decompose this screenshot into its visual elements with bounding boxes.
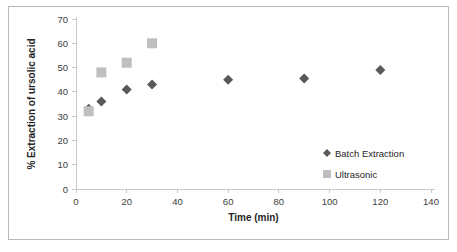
x-tick-label: 20: [121, 196, 132, 207]
chart-screenshot: 010203040506070 020406080100120140 Batch…: [0, 0, 457, 252]
data-point-ultrasonic: [147, 38, 157, 48]
y-tick-label: 50: [57, 62, 68, 73]
data-point-batch-extraction: [96, 97, 106, 107]
x-axis: 020406080100120140: [73, 189, 439, 207]
x-tick-label: 0: [73, 196, 78, 207]
data-point-batch-extraction: [147, 80, 157, 90]
y-tick-label: 30: [57, 111, 68, 122]
legend-marker-square: [323, 170, 331, 178]
y-tick-label: 40: [57, 86, 68, 97]
legend-label: Ultrasonic: [335, 169, 377, 180]
y-tick-label: 60: [57, 38, 68, 49]
x-axis-title: Time (min): [228, 212, 278, 223]
data-point-batch-extraction: [375, 65, 385, 75]
scatter-chart: 010203040506070 020406080100120140 Batch…: [9, 7, 450, 241]
x-tick-label: 80: [274, 196, 285, 207]
x-tick-label: 120: [372, 196, 388, 207]
y-axis-title: % Extraction of ursolic acid: [26, 38, 37, 169]
data-point-batch-extraction: [299, 74, 309, 84]
y-tick-label: 70: [57, 14, 68, 25]
y-tick-label: 20: [57, 135, 68, 146]
figure-frame: 010203040506070 020406080100120140 Batch…: [8, 6, 449, 240]
data-points: [84, 38, 386, 116]
x-tick-label: 40: [172, 196, 183, 207]
x-tick-label: 100: [322, 196, 338, 207]
data-point-ultrasonic: [122, 58, 132, 68]
legend-marker-diamond: [323, 149, 331, 157]
data-point-ultrasonic: [84, 106, 94, 116]
plot-area: 010203040506070 020406080100120140 Batch…: [9, 7, 450, 241]
y-axis: 010203040506070: [57, 14, 76, 195]
data-point-batch-extraction: [223, 75, 233, 85]
y-tick-label: 10: [57, 159, 68, 170]
chart-legend: Batch ExtractionUltrasonic: [323, 148, 404, 180]
data-point-batch-extraction: [122, 84, 132, 94]
data-point-ultrasonic: [96, 67, 106, 77]
x-tick-label: 60: [223, 196, 234, 207]
x-tick-label: 140: [423, 196, 439, 207]
y-tick-label: 0: [63, 184, 68, 195]
legend-label: Batch Extraction: [335, 148, 404, 159]
